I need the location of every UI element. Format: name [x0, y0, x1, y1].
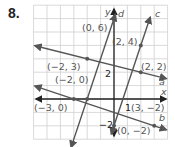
line-label-a: a [159, 76, 165, 87]
point [72, 97, 76, 101]
tick-label-x-1: 1 [125, 102, 131, 113]
point-label-0-6: (0, 6) [82, 22, 108, 33]
point [85, 97, 89, 101]
line-label-d: d [118, 8, 125, 19]
point-label-0-neg2: (0, −2) [117, 125, 151, 136]
point [112, 17, 116, 21]
tick-label-y-2: 2 [105, 68, 111, 79]
point [139, 43, 143, 47]
point-label-neg3-0: (−3, 0) [34, 102, 68, 113]
coordinate-graph: y x d c a b (0, 6) (2, 4) (−2, 3) (2, 2)… [0, 0, 175, 147]
y-axis-label: y [104, 6, 111, 17]
point [152, 124, 156, 128]
point [85, 57, 89, 61]
point-label-2-4: (2, 4) [112, 36, 138, 47]
point-label-neg2-0: (−2, 0) [55, 74, 89, 85]
line-label-b: b [159, 112, 165, 123]
line-label-c: c [155, 8, 161, 19]
point-label-3-neg2: (3, −2) [131, 102, 165, 113]
x-axis-label: x [160, 86, 167, 97]
tick-label-y-neg2: −2 [99, 119, 113, 130]
point-label-neg2-3: (−2, 3) [47, 61, 81, 72]
point-label-2-2: (2, 2) [141, 61, 167, 72]
line-c [111, 17, 150, 134]
